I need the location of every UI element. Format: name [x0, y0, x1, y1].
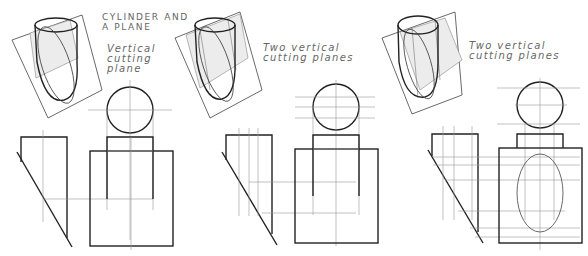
panel-3-top-view [497, 78, 580, 250]
figure-title-line-2: A PLANE [102, 22, 151, 32]
panel-2-caption-line-2: cutting planes [263, 53, 354, 63]
panel-1-top-view [88, 80, 172, 240]
panel-3-caption-line-2: cutting planes [469, 51, 560, 61]
panel-3-pictorial [382, 12, 462, 114]
panel-2-pictorial [175, 12, 262, 118]
panel-1-pictorial [12, 15, 102, 118]
figure-title-line-1: CYLINDER AND [102, 12, 189, 22]
panel-3-side-view [428, 126, 580, 243]
panel-2-front-view [295, 135, 378, 243]
panel-1-front-view [90, 137, 173, 250]
panel-2-top-view [295, 80, 375, 246]
panel-1-caption-line-3: plane [107, 64, 142, 74]
technical-drawing-canvas [0, 0, 588, 256]
panel-3-front-view [499, 134, 582, 243]
panel-1-side-view [17, 130, 153, 247]
